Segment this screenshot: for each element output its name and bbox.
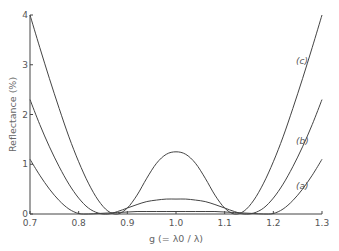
curve-label-b: (b) <box>296 136 309 146</box>
series-curve-b <box>30 100 322 215</box>
x-tick-label: 1.2 <box>266 218 280 228</box>
series-curve-a <box>30 159 322 214</box>
x-tick-label: 0.9 <box>120 218 135 228</box>
y-tick-label: 4 <box>22 10 28 20</box>
axes: 0.70.80.91.01.11.21.301234 <box>22 10 329 228</box>
curve-label-c: (c) <box>296 56 308 66</box>
y-tick-label: 0 <box>22 209 28 219</box>
curve-label-a: (a) <box>296 181 309 191</box>
axis-lines <box>30 15 322 214</box>
y-tick-label: 3 <box>22 60 28 70</box>
y-tick-label: 1 <box>22 159 28 169</box>
x-tick-label: 1.1 <box>218 218 232 228</box>
x-tick-label: 1.3 <box>315 218 329 228</box>
x-tick-label: 1.0 <box>169 218 184 228</box>
labels: g (= λ0 / λ)Reflectance (%)(c)(b)(a) <box>7 56 309 244</box>
y-axis-label: Reflectance (%) <box>7 77 18 152</box>
reflectance-chart: 0.70.80.91.01.11.21.301234 g (= λ0 / λ)R… <box>0 0 339 251</box>
series-curve-c <box>30 15 322 214</box>
y-tick-label: 2 <box>22 110 28 120</box>
x-axis-label: g (= λ0 / λ) <box>149 233 203 244</box>
x-tick-label: 0.7 <box>23 218 37 228</box>
x-tick-label: 0.8 <box>72 218 87 228</box>
curves <box>30 15 322 214</box>
